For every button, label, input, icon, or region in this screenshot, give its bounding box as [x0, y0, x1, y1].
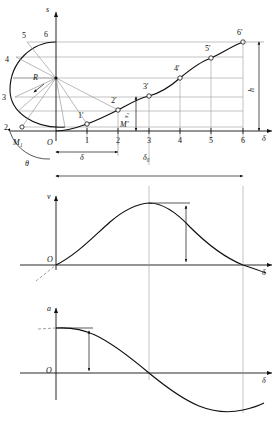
s1-label: s₁: [122, 113, 130, 118]
arc-label-4: 4: [5, 55, 9, 64]
curve-label-4p: 4': [174, 64, 180, 73]
curve-label-2p: 2': [111, 96, 117, 105]
tick-label-6: 6: [241, 136, 245, 145]
a-axis-label: a: [47, 304, 51, 313]
curve-label-3p: 3': [143, 82, 149, 91]
displacement-diagram: s δ R 2 3 4 5 6 M₁: [2, 5, 272, 176]
tick-label-1: 1: [85, 136, 89, 145]
acceleration-curve: [56, 328, 264, 412]
s-axis-label: s: [46, 5, 49, 14]
stroke-label: h: [247, 88, 256, 92]
origin-label-2: O: [47, 255, 53, 264]
velocity-curve: [56, 203, 266, 273]
acceleration-diagram: a δ O: [20, 285, 272, 413]
radius-leader: [34, 84, 44, 92]
delta-dimension-label: δ: [80, 153, 84, 162]
circle-centre: [54, 76, 57, 79]
delta-axis-label-3: δ: [262, 376, 266, 385]
tick-label-3: 3: [147, 136, 151, 145]
velocity-dashed-tail: [36, 265, 56, 281]
tick-label-5: 5: [209, 136, 213, 145]
v-axis-label: v: [47, 192, 51, 201]
accel-dashed-lead: [38, 328, 56, 329]
curve-label-1p: 1': [78, 111, 84, 120]
point-M1-marker: [20, 125, 24, 129]
tick-label-4: 4: [178, 136, 182, 145]
origin-label-3: O: [46, 366, 52, 375]
radius-label: R: [32, 73, 38, 82]
arc-label-6: 6: [44, 30, 48, 39]
origin-label-1: O: [47, 138, 53, 147]
arc-label-3: 3: [2, 93, 6, 102]
delta-axis-label-1: δ: [262, 134, 266, 143]
point-Mprime-label: M': [119, 120, 129, 129]
displacement-curve: [56, 42, 243, 131]
velocity-diagram: v δ O: [20, 186, 272, 285]
curve-label-6p: 6': [237, 28, 243, 37]
radial-lines: [13, 42, 118, 127]
arc-label-5: 5: [22, 31, 26, 40]
kinematic-diagram: s δ R 2 3 4 5 6 M₁: [0, 0, 280, 427]
figure-root: s δ R 2 3 4 5 6 M₁: [0, 0, 280, 427]
theta-label: θ: [25, 159, 29, 168]
curve-label-5p: 5': [205, 44, 211, 53]
delta0-label: δ₀: [143, 153, 150, 162]
arc-label-2: 2: [4, 123, 8, 132]
